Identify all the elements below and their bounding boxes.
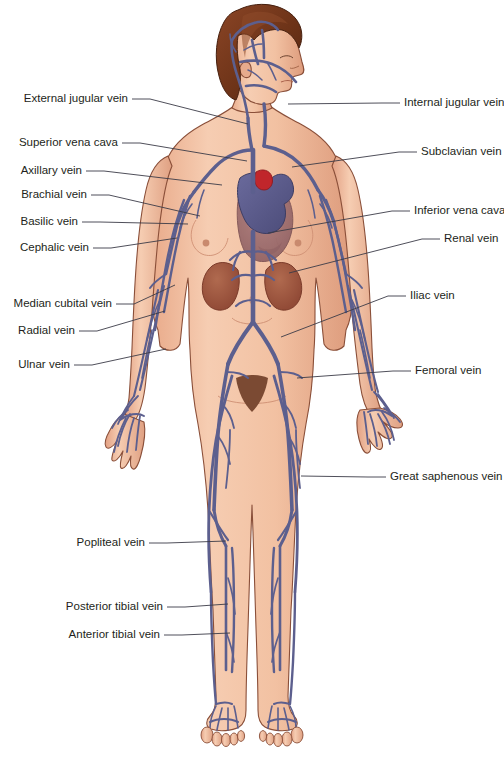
label-iliac-vein: Iliac vein xyxy=(410,290,455,302)
label-anterior-tibial-vein: Anterior tibial vein xyxy=(0,629,160,641)
anatomy-diagram-page: External jugular veinSuperior vena cavaA… xyxy=(0,0,504,761)
leader-femoral-vein xyxy=(297,371,411,378)
label-renal-vein: Renal vein xyxy=(444,233,498,245)
label-basilic-vein: Basilic vein xyxy=(0,216,78,228)
label-posterior-tibial-vein: Posterior tibial vein xyxy=(0,601,163,613)
label-brachial-vein: Brachial vein xyxy=(0,189,87,201)
label-radial-vein: Radial vein xyxy=(0,325,75,337)
internal-jugular xyxy=(264,104,266,146)
label-popliteal-vein: Popliteal vein xyxy=(0,537,145,549)
label-femoral-vein: Femoral vein xyxy=(415,365,481,377)
body-outline xyxy=(105,11,402,730)
label-external-jugular-vein: External jugular vein xyxy=(0,93,128,105)
label-subclavian-vein: Subclavian vein xyxy=(421,146,502,158)
label-cephalic-vein: Cephalic vein xyxy=(0,242,89,254)
label-ulnar-vein: Ulnar vein xyxy=(0,359,70,371)
label-great-saphenous-vein: Great saphenous vein xyxy=(390,471,503,483)
label-superior-vena-cava: Superior vena cava xyxy=(0,137,118,149)
leader-internal-jugular-vein xyxy=(288,103,400,104)
nipple-left xyxy=(203,240,210,247)
label-median-cubital-vein: Median cubital vein xyxy=(0,298,112,310)
venous-system-figure xyxy=(0,0,504,761)
aorta-red xyxy=(255,170,273,190)
label-inferior-vena-cava: Inferior vena cava xyxy=(414,205,504,217)
leader-great-saphenous-vein xyxy=(301,476,386,477)
nipple-right xyxy=(295,240,302,247)
leader-ulnar-vein xyxy=(74,349,166,365)
heart xyxy=(237,170,293,262)
label-axillary-vein: Axillary vein xyxy=(0,165,82,177)
label-internal-jugular-vein: Internal jugular vein xyxy=(404,97,504,109)
